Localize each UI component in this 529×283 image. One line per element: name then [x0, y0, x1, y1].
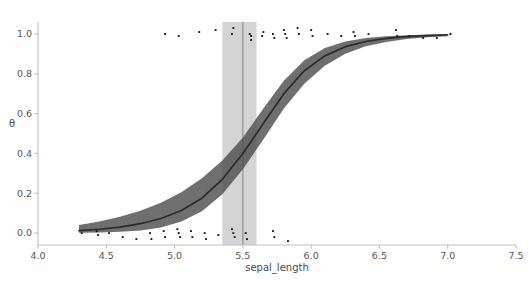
x-tick-label: 6.5 [372, 250, 387, 261]
data-point-class0 [191, 236, 193, 238]
data-point-class0 [97, 234, 99, 236]
hdi-ribbon [79, 34, 448, 233]
data-point-class1 [353, 31, 355, 33]
data-point-class1 [283, 29, 285, 31]
data-point-class0 [204, 232, 206, 234]
x-tick-label: 4.0 [30, 250, 45, 261]
data-point-class0 [287, 240, 289, 242]
data-point-class1 [340, 35, 342, 37]
data-point-class1 [422, 37, 424, 39]
data-point-class0 [176, 228, 178, 230]
data-point-class1 [286, 37, 288, 39]
data-point-class1 [178, 35, 180, 37]
data-point-class1 [436, 37, 438, 39]
data-point-class1 [250, 35, 252, 37]
data-point-class0 [150, 238, 152, 240]
logistic-regression-chart: 4.04.55.05.56.06.57.07.50.00.20.40.60.81… [0, 0, 529, 283]
data-point-class1 [395, 29, 397, 31]
data-point-class1 [327, 33, 329, 35]
y-tick-label: 0.4 [17, 148, 32, 159]
data-point-class1 [231, 33, 233, 35]
data-point-class1 [272, 33, 274, 35]
data-point-class0 [96, 230, 98, 232]
x-tick-label: 5.0 [167, 250, 182, 261]
data-point-class1 [273, 37, 275, 39]
data-point-class1 [409, 35, 411, 37]
data-point-class0 [190, 230, 192, 232]
figure-canvas: 4.04.55.05.56.06.57.07.50.00.20.40.60.81… [0, 0, 529, 283]
data-point-class1 [354, 35, 356, 37]
y-axis-title: θ [9, 118, 15, 129]
data-point-class1 [232, 27, 234, 29]
data-point-class0 [273, 236, 275, 238]
data-point-class0 [179, 236, 181, 238]
data-point-class0 [178, 232, 180, 234]
y-tick-label: 0.8 [17, 68, 32, 79]
data-point-class0 [81, 232, 83, 234]
data-point-class0 [164, 236, 166, 238]
x-axis-title: sepal_length [245, 262, 309, 274]
data-point-class1 [262, 31, 264, 33]
data-point-class0 [234, 236, 236, 238]
data-point-class0 [205, 238, 207, 240]
data-point-class0 [135, 238, 137, 240]
data-point-class1 [215, 29, 217, 31]
data-point-class1 [249, 33, 251, 35]
data-point-class1 [297, 27, 299, 29]
data-point-class1 [250, 39, 252, 41]
x-tick-label: 7.5 [508, 250, 523, 261]
data-point-class0 [245, 232, 247, 234]
data-point-class0 [231, 228, 233, 230]
y-tick-label: 0.0 [17, 227, 32, 238]
data-point-class1 [164, 33, 166, 35]
y-tick-label: 0.2 [17, 188, 32, 199]
x-tick-label: 4.5 [99, 250, 114, 261]
data-point-class0 [149, 232, 151, 234]
data-point-class0 [163, 230, 165, 232]
data-point-class1 [261, 35, 263, 37]
data-point-class1 [284, 33, 286, 35]
y-tick-label: 0.6 [17, 108, 32, 119]
y-tick-label: 1.0 [17, 28, 32, 39]
data-point-class1 [450, 33, 452, 35]
data-point-class1 [312, 35, 314, 37]
data-point-class0 [122, 236, 124, 238]
data-point-class0 [272, 230, 274, 232]
data-point-class1 [368, 33, 370, 35]
data-point-class1 [298, 33, 300, 35]
data-point-class0 [232, 232, 234, 234]
x-tick-label: 7.0 [440, 250, 455, 261]
data-point-class0 [246, 238, 248, 240]
data-point-class1 [310, 29, 312, 31]
data-point-class1 [396, 35, 398, 37]
data-point-class1 [198, 31, 200, 33]
x-tick-label: 6.0 [304, 250, 319, 261]
x-tick-label: 5.5 [235, 250, 250, 261]
data-point-class0 [217, 234, 219, 236]
data-point-class0 [108, 232, 110, 234]
